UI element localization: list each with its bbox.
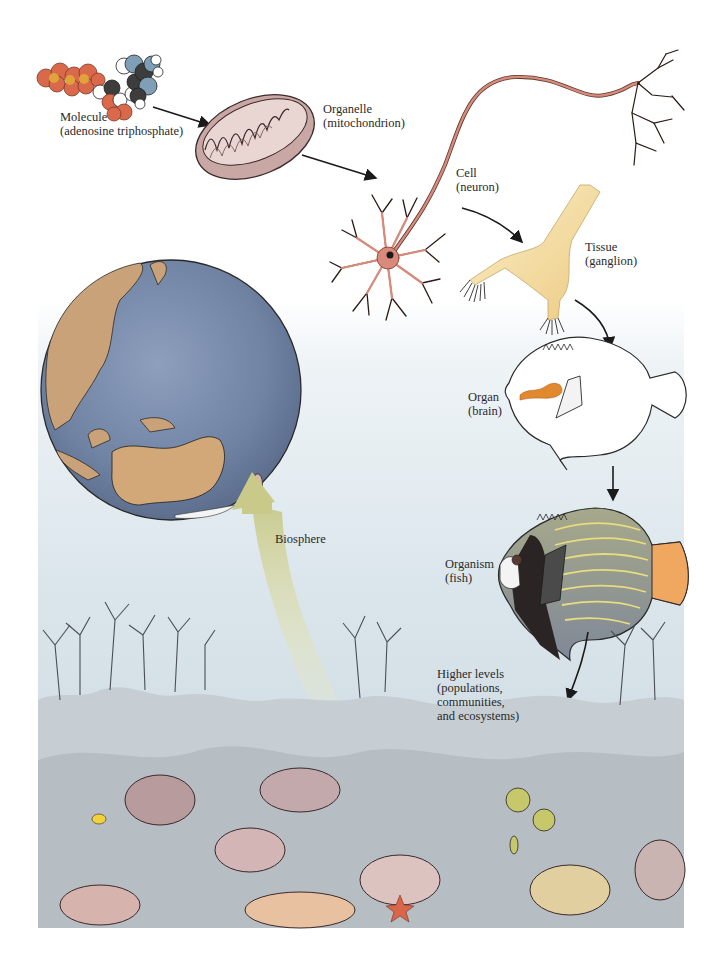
organ-fish-outline-icon: [505, 337, 686, 470]
tissue-label: Tissue (ganglion): [585, 240, 637, 268]
organ-level-name: Organ: [468, 390, 502, 404]
organelle-example: (mitochondrion): [323, 116, 405, 130]
cell-level-name: Cell: [456, 166, 499, 180]
organelle-label: Organelle (mitochondrion): [323, 102, 405, 130]
organelle-level-name: Organelle: [323, 102, 405, 116]
small-yellow-fish-icon: [92, 814, 106, 824]
organ-example: (brain): [468, 404, 502, 418]
tissue-example: (ganglion): [585, 254, 637, 268]
molecule-example: (adenosine triphosphate): [60, 124, 183, 138]
molecule-level-name: Molecule: [60, 110, 183, 124]
biosphere-label: Biosphere: [275, 532, 326, 546]
organism-example: (fish): [445, 571, 494, 585]
molecule-label: Molecule (adenosine triphosphate): [60, 110, 183, 138]
higher-levels-example-line-2: communities,: [437, 695, 519, 709]
biosphere-arrow-icon: [232, 472, 338, 708]
organism-label: Organism (fish): [445, 557, 494, 585]
globe-biosphere-icon: [41, 260, 301, 520]
biological-organization-diagram: Molecule (adenosine triphosphate) Organe…: [0, 0, 718, 977]
coral-reef-illustration: [38, 602, 685, 928]
arrow-organelle-to-cell: [302, 155, 376, 178]
ganglion-tissue-icon: [460, 185, 600, 335]
cell-label: Cell (neuron): [456, 166, 499, 194]
organism-fish-icon: [498, 508, 688, 660]
higher-levels-example-line-1: (populations,: [437, 681, 519, 695]
higher-levels-example-line-3: and ecosystems): [437, 709, 519, 723]
cell-example: (neuron): [456, 180, 499, 194]
higher-levels-label: Higher levels (populations, communities,…: [437, 667, 519, 723]
neuron-icon: [330, 50, 684, 320]
organism-level-name: Organism: [445, 557, 494, 571]
mitochondrion-icon: [183, 79, 326, 196]
tissue-level-name: Tissue: [585, 240, 637, 254]
higher-levels-name: Higher levels: [437, 667, 519, 681]
organ-label: Organ (brain): [468, 390, 502, 418]
biosphere-level-name: Biosphere: [275, 532, 326, 546]
arrow-cell-to-tissue: [462, 208, 522, 242]
illustration-layer: [0, 0, 718, 977]
